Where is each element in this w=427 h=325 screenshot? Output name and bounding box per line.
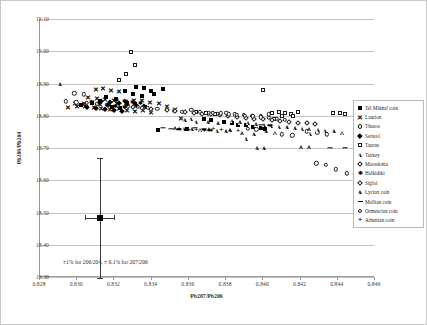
data-point-dash [161, 127, 166, 128]
data-point-diamond-open [139, 105, 145, 111]
legend-item-ormescian-coin[interactable]: Ormescian coin [356, 206, 422, 215]
data-point-circle-open [227, 112, 231, 116]
data-point-star: ✱ [122, 98, 127, 104]
error-annotation-text: ±1% for 206/204, ± 0.1% for 207/206 [63, 259, 148, 265]
legend-item-thasos[interactable]: Thasos [356, 122, 422, 131]
data-point-diamond-open [278, 118, 284, 124]
legend-item-macedonia[interactable]: Macedonia [356, 159, 422, 168]
data-point-triangle-open [230, 119, 234, 123]
data-point-square-filled [209, 118, 213, 122]
data-point-square-filled [244, 123, 248, 127]
data-point-square-open [296, 110, 300, 114]
legend-label: Athenian coin [364, 217, 394, 223]
legend-item-tel-mikhal-coin[interactable]: Tel Mikhal coin [356, 103, 422, 112]
data-point-triangle-open [173, 126, 177, 130]
legend-item-halkidiki[interactable]: ✱Halkidiki [356, 169, 422, 178]
data-point-circle-open [197, 110, 201, 114]
legend-label: Tel Mikhal coin [364, 105, 398, 111]
data-point-triangle-open [358, 190, 362, 194]
data-point-diamond-open [312, 121, 318, 127]
data-point-circle-open [242, 113, 246, 117]
legend-marker-diamond-filled-icon [356, 131, 364, 140]
legend-label: Series1 [364, 133, 380, 139]
data-point-square-filled [133, 102, 137, 106]
data-point-x: ✕ [106, 101, 112, 108]
legend-item-turkey[interactable]: Turkey [356, 150, 422, 159]
legend-item-sigloi[interactable]: Sigloi [356, 178, 422, 187]
data-point-triangle-open [332, 129, 336, 133]
data-point-circle-open [315, 131, 319, 135]
data-point-square-filled [114, 97, 118, 101]
data-point-triangle-open [207, 127, 211, 131]
data-point-circle-open [250, 114, 254, 118]
x-axis-tick-mark [225, 277, 226, 280]
legend-label: Macedonia [364, 161, 388, 167]
data-point-x: ✕ [93, 85, 99, 92]
data-point-circle-open [85, 101, 89, 105]
data-point-dash [208, 130, 213, 131]
legend-item-lycian-coin[interactable]: Lycian coin [356, 188, 422, 197]
data-point-circle-open [259, 115, 263, 119]
legend-item-taurus[interactable]: Taurus [356, 141, 422, 150]
data-point-circle-open [258, 114, 262, 118]
data-point-circle-open [72, 91, 76, 95]
data-point-circle-open [136, 105, 140, 109]
data-point-diamond-open [226, 113, 232, 119]
data-point-triangle-open [269, 124, 273, 128]
error-bar-center-marker [97, 215, 103, 221]
data-point-square-open [204, 111, 208, 115]
data-point-diamond-open [164, 107, 170, 113]
data-point-triangle-open [215, 129, 219, 133]
data-point-x: ✕ [114, 100, 120, 107]
legend-marker-diamond-open-icon [356, 178, 364, 187]
x-axis-tick-label: 0.836 [171, 281, 205, 287]
data-point-square-open [272, 117, 276, 121]
data-point-triangle-open [285, 125, 289, 129]
data-point-triangle-open [228, 128, 232, 132]
legend-item-athenian-coin[interactable]: +Athenian coin [356, 216, 422, 225]
x-axis-tick-mark [113, 277, 114, 280]
data-points-layer: ✕✕✕✕✕✕✕✕✕✕✕✕✕✕✕✕✕✕✕✕✕✕✕✕✕✕✕✕✕✕✕✕✕✱✱✱✱✱✱✱… [40, 19, 374, 276]
data-point-square-open [343, 112, 347, 116]
data-point-star: ✱ [122, 104, 127, 110]
data-point-x: ✕ [131, 96, 137, 103]
data-point-square-open [124, 72, 128, 76]
data-point-dash [358, 201, 363, 202]
data-point-x: ✕ [111, 96, 117, 103]
data-point-triangle-open [264, 129, 268, 133]
legend-label: Halkidiki [364, 170, 385, 176]
data-point-square-filled [118, 106, 122, 110]
legend-marker-plus-icon: + [356, 216, 364, 225]
x-axis-tick-label: 0.846 [357, 281, 391, 287]
data-point-square-filled [149, 89, 153, 93]
data-point-square-open [261, 88, 265, 92]
data-point-triangle-open [299, 145, 303, 149]
x-axis-tick-label: 0.828 [22, 281, 56, 287]
data-point-dash [193, 127, 198, 128]
data-point-x: ✕ [81, 99, 87, 106]
legend-item-laurion[interactable]: ✕Laurion [356, 112, 422, 121]
data-point-x: ✕ [140, 106, 146, 113]
data-point-x: ✕ [85, 94, 91, 101]
legend-marker-dash-icon [356, 197, 364, 206]
data-point-diamond-filled [94, 105, 99, 110]
data-point-square-filled [140, 94, 144, 98]
legend-label: Sigloi [364, 180, 377, 186]
data-point-diamond-open [148, 106, 154, 112]
legend-item-mallian-coin[interactable]: Mallian coin [356, 197, 422, 206]
data-point-x: ✕ [132, 108, 138, 115]
legend-item-series1[interactable]: Series1 [356, 131, 422, 140]
x-axis-tick-label: 0.840 [245, 281, 279, 287]
gridline-horizontal [40, 277, 374, 278]
data-point-diamond-open [191, 110, 197, 116]
x-axis-tick-mark [76, 277, 77, 280]
data-point-triangle-open [183, 118, 187, 122]
y-axis-tick-label: 18.50 [19, 210, 49, 216]
data-point-circle-open [215, 112, 219, 116]
scatter-plot-figure: ✕✕✕✕✕✕✕✕✕✕✕✕✕✕✕✕✕✕✕✕✕✕✕✕✕✕✕✕✕✕✕✕✕✱✱✱✱✱✱✱… [0, 0, 427, 325]
data-point-diamond-open [304, 120, 310, 126]
data-point-x: ✕ [124, 107, 130, 114]
legend-marker-triangle-open-icon [356, 150, 364, 159]
data-point-x: ✕ [357, 114, 363, 121]
data-point-square-open [289, 112, 293, 116]
